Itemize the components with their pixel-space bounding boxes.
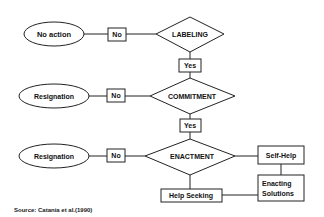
flowchart: No action No LABELING Yes Resignation No… — [0, 0, 324, 217]
decision-label: LABELING — [172, 31, 208, 38]
enacting-solutions-box — [258, 175, 304, 201]
decision-label: ENACTMENT — [170, 153, 215, 160]
help-seeking-label: Help Seeking — [169, 192, 213, 200]
source-citation: Source: Catania et al.(1990) — [14, 207, 92, 213]
branch-no-label: No — [112, 31, 121, 38]
decision-label: COMMITMENT — [168, 93, 217, 100]
enacting-label-line2: Solutions — [262, 190, 294, 197]
self-help-label: Self-Help — [266, 152, 296, 160]
branch-no-label: No — [111, 92, 120, 99]
outcome-label: Resignation — [34, 93, 74, 101]
outcome-label: No action — [37, 30, 72, 39]
enacting-label-line1: Enacting — [262, 180, 292, 188]
outcome-label: Resignation — [34, 153, 74, 161]
branch-no-label: No — [111, 152, 120, 159]
branch-yes-label: Yes — [184, 122, 196, 129]
branch-yes-label: Yes — [184, 62, 196, 69]
